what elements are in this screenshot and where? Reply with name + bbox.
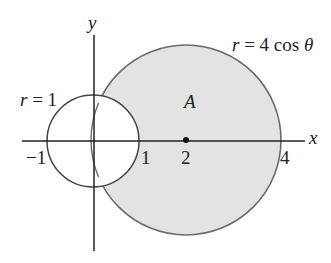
tick-label-1: 1 bbox=[141, 148, 151, 167]
tick-label-neg1: −1 bbox=[26, 148, 46, 167]
tick-label-4: 4 bbox=[280, 148, 290, 167]
small-circle-equation: r = 1 bbox=[20, 90, 57, 109]
y-axis-label: y bbox=[88, 13, 96, 32]
big-circle-equation: r = 4 cos θ bbox=[232, 35, 313, 54]
polar-diagram: y x r = 1 r = 4 cos θ A −1 1 2 4 bbox=[0, 0, 331, 263]
tick-label-2: 2 bbox=[181, 148, 191, 167]
center-point bbox=[183, 137, 189, 143]
region-label-a: A bbox=[184, 92, 196, 111]
x-axis-label: x bbox=[309, 128, 317, 147]
